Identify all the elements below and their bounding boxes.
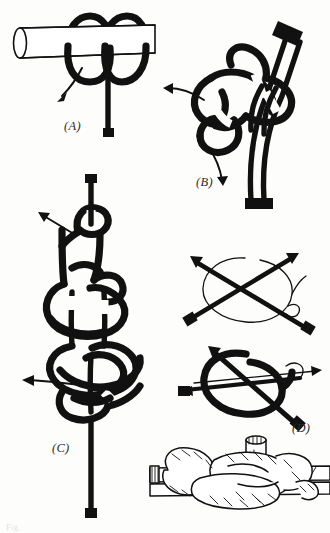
figure-b-label: (B) [196, 175, 213, 189]
figure-b-lower-end-cap [245, 198, 273, 209]
figure-d-stage-two-rod-diagonal [208, 346, 306, 431]
figure-d-stage-two [178, 346, 322, 431]
figure-c-arrow-upper-left [38, 212, 74, 234]
figure-a-group: (A) [14, 16, 156, 137]
figure-b-group: (B) [163, 21, 303, 209]
page-bottom-artifact: Fig. [6, 523, 21, 532]
figure-c-middle-coil [46, 265, 124, 346]
figure-c-label: (C) [52, 441, 70, 455]
spar [14, 25, 156, 58]
figure-d-label: (D) [292, 421, 310, 435]
figure-c-group: (C) [22, 174, 140, 518]
figure-c-bottom-end-cap [85, 508, 97, 518]
figure-e-group [150, 436, 330, 509]
figure-a-standing-part [103, 80, 114, 137]
illustration-plate: (A) [0, 0, 330, 533]
figure-a-label: (A) [64, 119, 81, 133]
figure-d-stage-one-rod-b [190, 256, 316, 335]
figure-d-group: (D) [178, 253, 322, 435]
figure-b-upper-end-cap [272, 21, 303, 46]
figure-d-stage-one [182, 253, 315, 335]
cord-end-cap [103, 128, 114, 137]
plate-drawing-canvas: (A) [0, 0, 330, 533]
figure-c-top-end-cap [85, 174, 97, 183]
figure-e-rope-turns [163, 448, 318, 509]
